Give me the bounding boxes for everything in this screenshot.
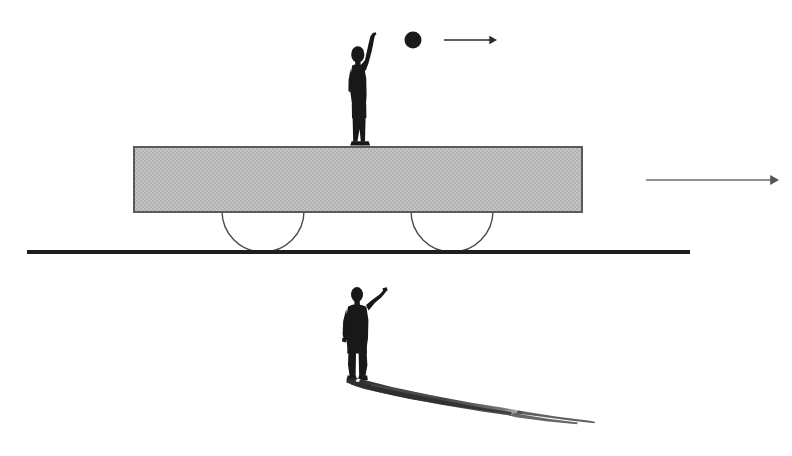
figure-shadow [346,378,595,425]
figure-on-ground [342,287,388,380]
cart-wheel-rear [411,211,493,252]
cart-wheels [222,211,493,252]
physics-diagram-canvas: Ball tossed vertically by observer on mo… [0,0,792,456]
diagram-svg [0,0,792,456]
ball [405,32,422,49]
cart-wheel-front [222,211,304,252]
figure-on-cart [348,32,376,145]
cart-body [134,147,582,212]
cart-velocity-arrow [646,175,779,185]
ball-velocity-arrow [444,36,497,45]
